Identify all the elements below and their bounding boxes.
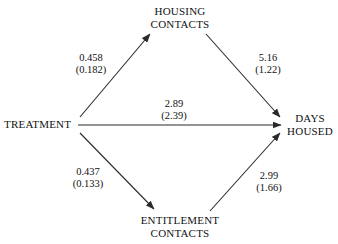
node-housing-contacts: HOUSING CONTACTS [136, 5, 224, 30]
coefficient-housing-to-days-housed: 5.16 (1.22) [248, 52, 288, 76]
node-entitlement-contacts-line1: ENTITLEMENT [120, 214, 240, 227]
path-diagram: TREATMENT HOUSING CONTACTS ENTITLEMENT C… [0, 0, 338, 244]
coefficient-b1-std-error: (1.22) [248, 64, 288, 76]
coefficient-c-std-error: (2.39) [152, 110, 196, 122]
node-housing-contacts-line1: HOUSING [136, 5, 224, 18]
coefficient-a1-estimate: 0.458 [68, 52, 114, 64]
node-treatment: TREATMENT [4, 118, 71, 131]
coefficient-treatment-to-entitlement: 0.437 (0.133) [64, 166, 112, 190]
node-housing-contacts-line2: CONTACTS [136, 18, 224, 31]
node-entitlement-contacts-line2: CONTACTS [120, 227, 240, 240]
coefficient-b2-estimate: 2.99 [248, 170, 290, 182]
coefficient-entitlement-to-days-housed: 2.99 (1.66) [248, 170, 290, 194]
node-entitlement-contacts: ENTITLEMENT CONTACTS [120, 214, 240, 239]
coefficient-b1-estimate: 5.16 [248, 52, 288, 64]
node-treatment-line1: TREATMENT [4, 118, 71, 131]
coefficient-a2-std-error: (0.133) [64, 178, 112, 190]
coefficient-treatment-to-days-housed: 2.89 (2.39) [152, 98, 196, 122]
node-days-housed: DAYS HOUSED [284, 112, 336, 137]
coefficient-a2-estimate: 0.437 [64, 166, 112, 178]
coefficient-a1-std-error: (0.182) [68, 64, 114, 76]
coefficient-treatment-to-housing: 0.458 (0.182) [68, 52, 114, 76]
coefficient-b2-std-error: (1.66) [248, 182, 290, 194]
node-days-housed-line1: DAYS [284, 112, 336, 125]
node-days-housed-line2: HOUSED [284, 125, 336, 138]
coefficient-c-estimate: 2.89 [152, 98, 196, 110]
